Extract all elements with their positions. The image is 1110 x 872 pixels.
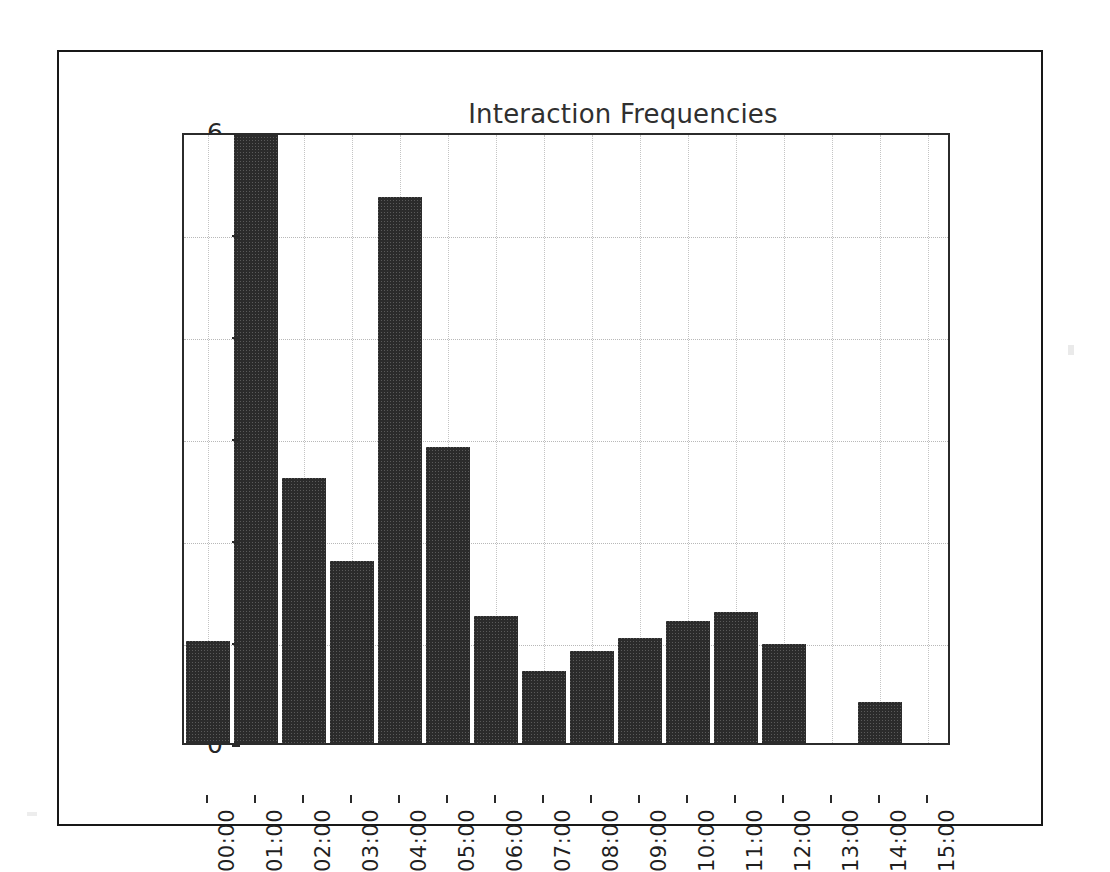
- x-axis-tick: [542, 795, 544, 803]
- bar: [378, 197, 421, 743]
- scan-speckle: [27, 812, 37, 816]
- x-axis-tick: [350, 795, 352, 803]
- x-axis-tick: [782, 795, 784, 803]
- x-axis-tick: [494, 795, 496, 803]
- gridline-horizontal: [184, 441, 948, 442]
- gridline-vertical: [880, 135, 881, 743]
- gridline-vertical: [928, 135, 929, 743]
- bar: [570, 651, 613, 743]
- bar: [234, 133, 277, 743]
- x-axis-tick-label: 03:00: [359, 809, 383, 872]
- x-axis-tick: [254, 795, 256, 803]
- bar: [522, 671, 565, 743]
- x-axis-tick-label: 06:00: [503, 809, 527, 872]
- x-axis-tick: [302, 795, 304, 803]
- x-axis-tick-label: 05:00: [455, 809, 479, 872]
- y-axis-tick: [232, 235, 240, 237]
- x-axis-tick: [398, 795, 400, 803]
- x-axis-tick-label: 04:00: [407, 809, 431, 872]
- bar: [474, 616, 517, 744]
- x-axis-tick: [590, 795, 592, 803]
- x-axis-tick-label: 12:00: [791, 809, 815, 872]
- x-axis-tick-label: 14:00: [887, 809, 911, 872]
- bar: [618, 638, 661, 743]
- bar: [426, 447, 469, 743]
- x-axis-tick-label: 09:00: [647, 809, 671, 872]
- plot-area: [182, 133, 950, 745]
- x-axis-tick-label: 15:00: [935, 809, 959, 872]
- gridline-horizontal: [184, 237, 948, 238]
- x-axis-tick: [830, 795, 832, 803]
- y-axis-tick: [232, 439, 240, 441]
- x-axis-tick: [686, 795, 688, 803]
- bar: [186, 641, 229, 743]
- x-axis-tick: [734, 795, 736, 803]
- y-axis-tick: [232, 133, 240, 135]
- x-axis-tick: [206, 795, 208, 803]
- bar: [714, 612, 757, 743]
- x-axis-tick-label: 13:00: [839, 809, 863, 872]
- y-axis-tick: [232, 541, 240, 543]
- x-axis-tick: [638, 795, 640, 803]
- x-axis-tick-label: 00:00: [215, 809, 239, 872]
- bar: [858, 702, 901, 743]
- y-axis-tick: [232, 643, 240, 645]
- bar: [762, 644, 805, 743]
- x-axis-tick-label: 07:00: [551, 809, 575, 872]
- bar: [282, 478, 325, 743]
- x-axis-tick: [926, 795, 928, 803]
- x-axis-tick-label: 10:00: [695, 809, 719, 872]
- bar: [330, 561, 373, 743]
- figure-border: Interaction Frequencies 0123456 00:0001:…: [57, 50, 1043, 826]
- gridline-vertical: [544, 135, 545, 743]
- gridline-vertical: [832, 135, 833, 743]
- scan-speckle: [1068, 345, 1074, 355]
- x-axis-tick-label: 02:00: [311, 809, 335, 872]
- x-axis-tick-label: 01:00: [263, 809, 287, 872]
- x-axis-tick: [878, 795, 880, 803]
- x-axis-tick-label: 11:00: [743, 809, 767, 872]
- x-axis-tick: [446, 795, 448, 803]
- y-axis-tick: [232, 745, 240, 747]
- bar: [666, 621, 709, 743]
- x-axis-tick-label: 08:00: [599, 809, 623, 872]
- y-axis-tick: [232, 337, 240, 339]
- chart-title: Interaction Frequencies: [239, 99, 1007, 129]
- gridline-horizontal: [184, 339, 948, 340]
